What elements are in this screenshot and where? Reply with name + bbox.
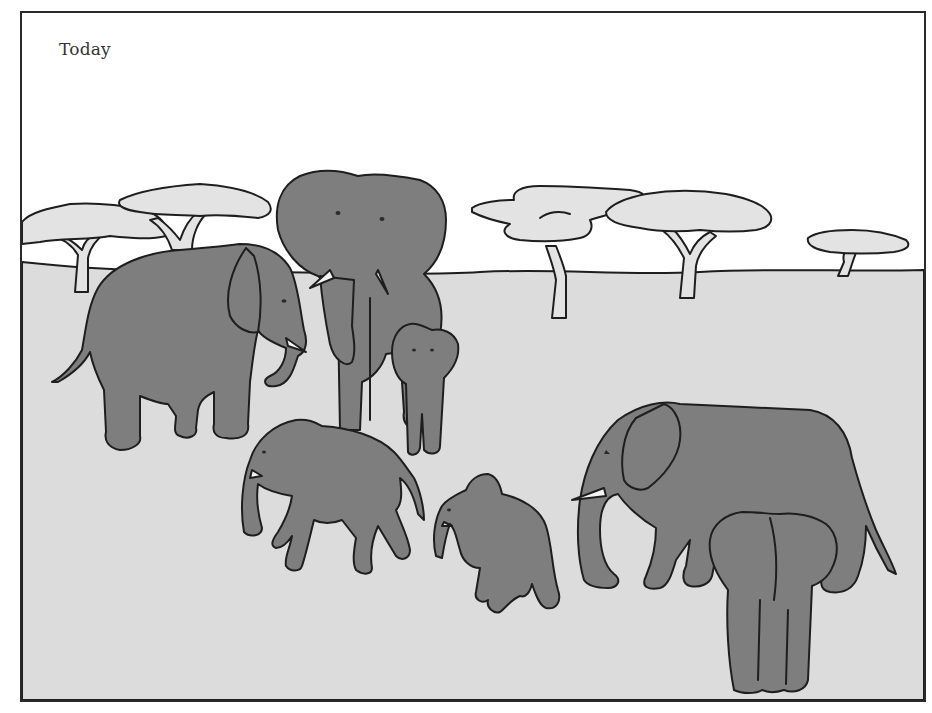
acacia-tree-icon [808,230,909,276]
savanna-scene [0,0,932,713]
caption-label: Today [59,39,111,59]
